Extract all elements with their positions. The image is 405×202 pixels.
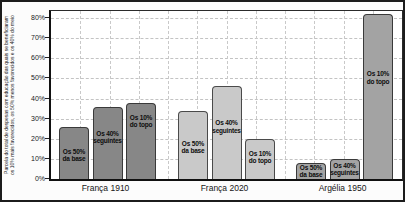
y-tick-mark-20 <box>45 138 49 139</box>
bar-label: Os 10% do topo <box>356 70 400 85</box>
plot-area: Os 50% da baseOs 40% seguintesOs 10% do … <box>49 10 403 181</box>
y-tick-label-20: 20% <box>5 134 45 141</box>
bar-label: Os 10% do topo <box>119 114 163 129</box>
gridline-v-8 <box>285 11 286 179</box>
gridline-v-9 <box>314 11 315 179</box>
bar-frança-2020-2: Os 10% do topo <box>245 139 275 179</box>
y-tick-label-50: 50% <box>5 74 45 81</box>
y-tick-mark-80 <box>45 17 49 18</box>
y-tick-label-60: 60% <box>5 54 45 61</box>
bar-label: Os 50% da base <box>171 140 215 155</box>
y-tick-mark-10 <box>45 158 49 159</box>
bar-argélia-1950-2: Os 10% do topo <box>363 14 393 179</box>
bar-frança-2020-1: Os 40% seguintes <box>212 86 242 179</box>
y-tick-label-70: 70% <box>5 34 45 41</box>
bar-frança-1910-2: Os 10% do topo <box>126 103 156 179</box>
gridline-v-10 <box>344 11 345 179</box>
bar-label: Os 40% seguintes <box>205 119 249 134</box>
bar-label: Os 10% do topo <box>238 150 282 165</box>
education-inequality-bar-chart: Parcela do total de despesas com educaçã… <box>0 0 405 202</box>
bar-frança-2020-0: Os 50% da base <box>178 111 208 179</box>
bar-label: Os 40% seguintes <box>86 130 130 145</box>
x-axis-group-label-1: França 2020 <box>175 183 275 193</box>
bar-argélia-1950-0: Os 50% da base <box>296 163 326 179</box>
y-tick-mark-50 <box>45 77 49 78</box>
bar-label: Os 40% seguintes <box>323 162 367 177</box>
y-tick-mark-40 <box>45 98 49 99</box>
bar-frança-1910-1: Os 40% seguintes <box>93 107 123 179</box>
x-axis-group-label-0: França 1910 <box>56 183 156 193</box>
y-tick-mark-0 <box>45 178 49 179</box>
y-tick-label-40: 40% <box>5 94 45 101</box>
y-tick-mark-70 <box>45 37 49 38</box>
y-tick-mark-60 <box>45 57 49 58</box>
bar-argélia-1950-1: Os 40% seguintes <box>330 159 360 179</box>
x-axis-group-label-2: Argélia 1950 <box>293 183 393 193</box>
y-tick-mark-30 <box>45 118 49 119</box>
y-tick-label-10: 10% <box>5 154 45 161</box>
bar-label: Os 50% da base <box>52 148 96 163</box>
y-tick-label-80: 80% <box>5 14 45 21</box>
bar-frança-1910-0: Os 50% da base <box>59 127 89 179</box>
y-tick-label-0: 0% <box>5 175 45 182</box>
y-tick-label-30: 30% <box>5 114 45 121</box>
gridline-v-4 <box>168 11 169 179</box>
